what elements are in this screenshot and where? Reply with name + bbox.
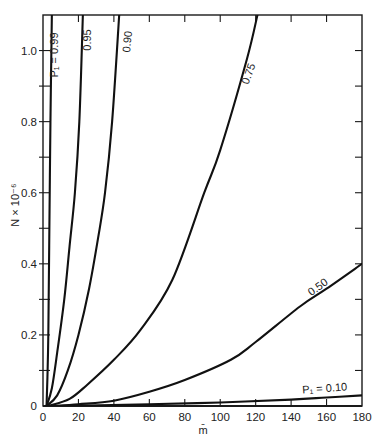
curve-label: P₁ = 0.99 <box>48 33 60 78</box>
y-tick-label: 0.6 <box>21 187 37 199</box>
curve-label: 0.95 <box>81 29 93 50</box>
x-tick-label: 40 <box>107 411 120 423</box>
x-tick-label: 80 <box>178 411 191 423</box>
x-tick-label: 20 <box>72 411 85 423</box>
plot-frame <box>43 15 362 406</box>
curve-0-75 <box>48 15 257 406</box>
x-tick-label: 140 <box>282 411 301 423</box>
curve-label: P₁ = 0.10 <box>302 380 348 395</box>
y-tick-label: 1.0 <box>21 45 37 57</box>
x-tick-label: 100 <box>211 411 230 423</box>
chart: 02040608010012014016018000.20.40.60.81.0… <box>0 0 377 446</box>
x-tick-label: 60 <box>143 411 156 423</box>
axis-ticks: 02040608010012014016018000.20.40.60.81.0 <box>21 15 372 423</box>
plot-border <box>43 15 362 406</box>
y-tick-label: 0.4 <box>21 258 38 270</box>
x-tick-label: 120 <box>246 411 265 423</box>
y-axis-label: N × 10⁻⁶ <box>9 183 21 226</box>
curve-label: 0.90 <box>120 30 134 53</box>
y-tick-label: 0.2 <box>21 329 37 341</box>
x-tick-label: 0 <box>40 411 46 423</box>
y-tick-label: 0.8 <box>21 116 37 128</box>
x-axis-label: m̄ <box>198 424 207 436</box>
y-tick-label: 0 <box>31 400 37 412</box>
curve-p1-0-10 <box>61 395 362 406</box>
x-tick-label: 160 <box>317 411 336 423</box>
x-tick-label: 180 <box>352 411 371 423</box>
curve-label: 0.75 <box>239 62 258 86</box>
curves <box>47 15 362 406</box>
